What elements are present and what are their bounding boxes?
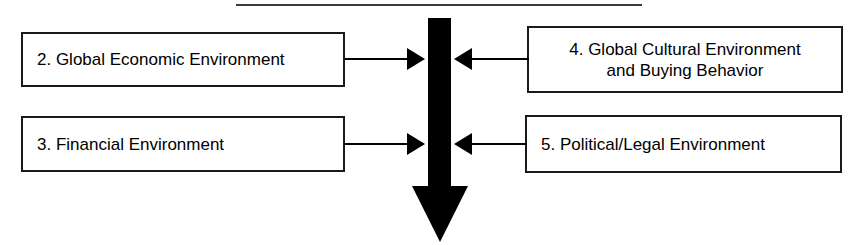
arrow-left-icon-cultural — [454, 48, 472, 70]
node-label-political: 5. Political/Legal Environment — [527, 134, 765, 155]
node-box-cultural[interactable]: 4. Global Cultural Environment and Buyin… — [527, 26, 843, 93]
connector-line-cultural — [472, 58, 529, 60]
node-label-economic: 2. Global Economic Environment — [23, 49, 285, 70]
connector-line-political — [472, 143, 527, 145]
node-box-economic[interactable]: 2. Global Economic Environment — [21, 32, 345, 87]
node-box-political[interactable]: 5. Political/Legal Environment — [525, 115, 842, 173]
node-label-cultural: 4. Global Cultural Environment and Buyin… — [569, 39, 801, 81]
connector-line-economic — [345, 58, 407, 60]
arrow-right-icon-financial — [407, 133, 425, 155]
top-rule-divider — [236, 4, 642, 6]
arrow-down-icon-main-flow — [412, 186, 468, 242]
main-flow-arrow-shaft — [428, 18, 451, 188]
arrow-left-icon-political — [454, 133, 472, 155]
diagram-canvas: 2. Global Economic Environment 3. Financ… — [0, 0, 860, 245]
node-box-financial[interactable]: 3. Financial Environment — [21, 116, 345, 172]
node-label-financial: 3. Financial Environment — [23, 134, 224, 155]
arrow-right-icon-economic — [407, 48, 425, 70]
connector-line-financial — [345, 143, 407, 145]
